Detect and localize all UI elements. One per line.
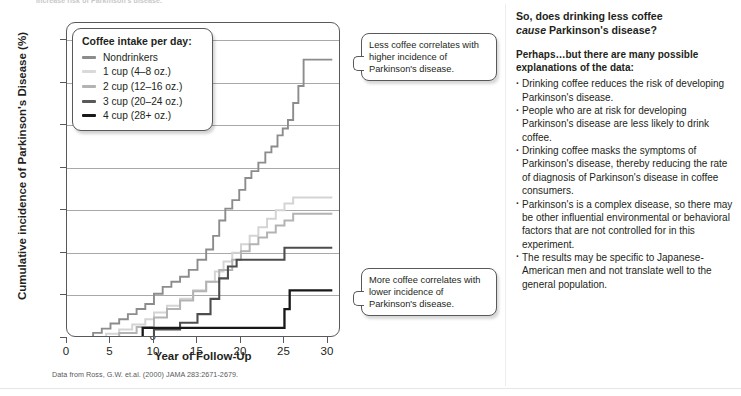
panel-heading-emphasis: cause bbox=[516, 24, 546, 36]
x-tick-mark bbox=[109, 337, 110, 343]
x-tick-mark bbox=[153, 337, 154, 343]
legend-swatch-line-icon bbox=[82, 100, 96, 103]
legend-rows: Nondrinkers1 cup (4–8 oz.)2 cup (12–16 o… bbox=[82, 50, 204, 123]
x-tick-label: 25 bbox=[268, 345, 298, 357]
x-tick-label: 20 bbox=[225, 345, 255, 357]
panel-heading: So, does drinking less coffee cause Park… bbox=[516, 10, 734, 37]
legend-swatch-line-icon bbox=[82, 85, 96, 88]
panel-heading-line1: So, does drinking less coffee bbox=[516, 10, 663, 22]
explanation-bullet-3: Parkinson's is a complex disease, so the… bbox=[516, 198, 734, 251]
explanation-panel: So, does drinking less coffee cause Park… bbox=[516, 10, 734, 291]
panel-divider bbox=[505, 4, 506, 386]
explanation-bullet-2: Drinking coffee masks the symptoms of Pa… bbox=[516, 144, 734, 197]
y-axis-label: Cumulative incidence of Parkinson's Dise… bbox=[16, 11, 28, 321]
x-tick-mark bbox=[66, 337, 67, 343]
legend-swatch-line-icon bbox=[82, 70, 96, 73]
callout-upper-tail bbox=[353, 56, 364, 71]
series-line-2-cup-12-16-oz bbox=[102, 214, 333, 336]
callout-lower-tail bbox=[353, 291, 364, 306]
legend-item-3: 3 cup (20–24 oz.) bbox=[82, 94, 204, 109]
legend-item-label: Nondrinkers bbox=[103, 52, 158, 63]
x-tick-label: 10 bbox=[138, 345, 168, 357]
panel-subheading: Perhaps…but there are many possible expl… bbox=[516, 48, 734, 74]
panel-heading-rest: Parkinson's disease? bbox=[546, 24, 657, 36]
legend-swatch-line-icon bbox=[82, 56, 96, 59]
legend-item-label: 4 cup (28+ oz.) bbox=[103, 110, 171, 121]
explanation-bullet-0: Drinking coffee reduces the risk of deve… bbox=[516, 77, 734, 104]
callout-lower-text: More coffee correlates with lower incide… bbox=[369, 275, 480, 309]
series-line-1-cup-4-8-oz bbox=[95, 198, 332, 336]
legend-item-2: 2 cup (12–16 oz.) bbox=[82, 79, 204, 94]
chart-panel: Cumulative incidence of Parkinson's Dise… bbox=[0, 0, 500, 396]
series-line-3-cup-20-24-oz bbox=[141, 248, 332, 336]
callout-upper-text: Less coffee correlates with higher incid… bbox=[369, 40, 479, 74]
callout-lower: More coffee correlates with lower incide… bbox=[361, 268, 497, 316]
x-tick-label: 5 bbox=[94, 345, 124, 357]
bottom-divider bbox=[0, 388, 741, 389]
x-tick-mark bbox=[327, 337, 328, 343]
figure-root: increase risk of Parkinson's disease. Cu… bbox=[0, 0, 741, 396]
legend-title: Coffee intake per day: bbox=[82, 35, 204, 47]
x-tick-label: 15 bbox=[181, 345, 211, 357]
x-tick-mark bbox=[196, 337, 197, 343]
explanation-bullet-1: People who are at risk for developing Pa… bbox=[516, 104, 734, 144]
x-tick-mark bbox=[283, 337, 284, 343]
source-caption: Data from Ross, G.W. et.al. (2000) JAMA … bbox=[52, 370, 238, 379]
x-tick-label: 30 bbox=[312, 345, 342, 357]
legend-item-label: 2 cup (12–16 oz.) bbox=[103, 81, 182, 92]
explanation-bullet-4: The results may be specific to Japanese-… bbox=[516, 251, 734, 291]
callout-upper: Less coffee correlates with higher incid… bbox=[361, 33, 497, 81]
legend-item-label: 1 cup (4–8 oz.) bbox=[103, 66, 171, 77]
legend-item-4: 4 cup (28+ oz.) bbox=[82, 108, 204, 123]
chart-legend: Coffee intake per day: Nondrinkers1 cup … bbox=[72, 28, 213, 131]
legend-swatch-line-icon bbox=[82, 114, 96, 117]
legend-item-0: Nondrinkers bbox=[82, 50, 204, 65]
x-tick-mark bbox=[240, 337, 241, 343]
legend-item-label: 3 cup (20–24 oz.) bbox=[103, 96, 182, 107]
explanation-list: Drinking coffee reduces the risk of deve… bbox=[516, 77, 734, 291]
legend-item-1: 1 cup (4–8 oz.) bbox=[82, 65, 204, 80]
x-tick-label: 0 bbox=[51, 345, 81, 357]
